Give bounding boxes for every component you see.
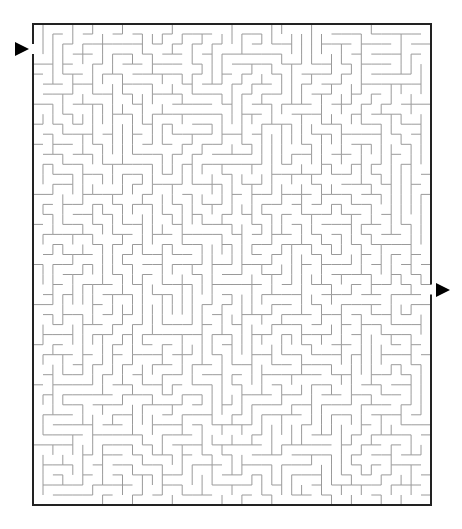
start-arrow-icon: Start	[15, 42, 29, 56]
maze-grid[interactable]	[0, 0, 462, 529]
maze-walls	[33, 24, 431, 505]
finish-arrow-icon: Finish	[436, 283, 450, 297]
